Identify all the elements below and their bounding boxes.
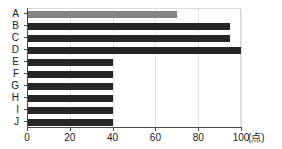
bar-row — [27, 105, 241, 117]
x-axis-labels: 020406080100 — [0, 131, 282, 145]
y-axis-labels: ABCDEFGHIJ — [0, 8, 24, 128]
x-axis-tick-label: 20 — [64, 131, 75, 145]
bars-layer — [27, 9, 240, 128]
y-axis-tick-label: G — [0, 80, 19, 92]
x-axis-tick-label: 0 — [24, 131, 30, 145]
x-axis-line — [27, 127, 242, 128]
y-axis-tick — [24, 121, 27, 122]
y-axis-tick — [24, 25, 27, 26]
bar-j — [27, 119, 113, 126]
x-axis-tick — [113, 128, 114, 131]
bar-a — [27, 11, 177, 18]
bar-c — [27, 35, 230, 42]
bar-row — [27, 21, 241, 33]
y-axis-tick-label: I — [0, 104, 19, 116]
y-axis-tick-label: C — [0, 32, 19, 44]
y-axis-tick-label: E — [0, 56, 19, 68]
y-axis-tick — [24, 37, 27, 38]
gridline — [241, 9, 242, 128]
y-axis-tick — [24, 61, 27, 62]
x-axis-tick — [241, 128, 242, 131]
y-axis-tick-label: J — [0, 116, 19, 128]
y-axis-tick — [24, 73, 27, 74]
y-axis-line — [27, 8, 28, 128]
y-axis-tick — [24, 13, 27, 14]
y-axis-tick-label: A — [0, 8, 19, 20]
bar-row — [27, 57, 241, 69]
bar-row — [27, 45, 241, 57]
x-axis-tick-label: 40 — [107, 131, 118, 145]
bar-row — [27, 69, 241, 81]
bar-b — [27, 23, 230, 30]
x-axis-tick — [198, 128, 199, 131]
bar-g — [27, 83, 113, 90]
x-axis-tick — [70, 128, 71, 131]
y-axis-tick-label: F — [0, 68, 19, 80]
y-axis-tick — [24, 97, 27, 98]
y-axis-tick-label: D — [0, 44, 19, 56]
x-axis-tick-label: 100 — [233, 131, 250, 145]
bar-e — [27, 59, 113, 66]
bar-row — [27, 33, 241, 45]
bar-i — [27, 107, 113, 114]
x-axis-tick — [155, 128, 156, 131]
x-axis-tick-label: 80 — [193, 131, 204, 145]
x-axis-tick — [27, 128, 28, 131]
bar-row — [27, 9, 241, 21]
plot-area — [27, 8, 241, 128]
bar-h — [27, 95, 113, 102]
x-axis-unit-label: (点) — [248, 131, 265, 145]
y-axis-tick — [24, 109, 27, 110]
y-axis-tick — [24, 49, 27, 50]
bar-row — [27, 81, 241, 93]
y-axis-tick-label: B — [0, 20, 19, 32]
y-axis-tick — [24, 85, 27, 86]
bar-d — [27, 47, 241, 54]
bar-chart: ABCDEFGHIJ 020406080100 (点) — [0, 0, 282, 149]
y-axis-tick-label: H — [0, 92, 19, 104]
x-axis-tick-label: 60 — [150, 131, 161, 145]
bar-row — [27, 93, 241, 105]
bar-f — [27, 71, 113, 78]
